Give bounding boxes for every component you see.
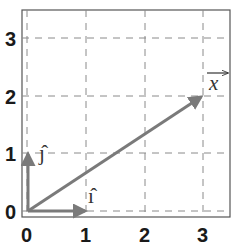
y-tick-2: 2 <box>5 86 16 108</box>
y-tick-3: 3 <box>5 28 16 50</box>
x-tick-3: 3 <box>197 224 208 246</box>
y-tick-0: 0 <box>5 201 16 223</box>
x-vector-label: x <box>208 71 219 95</box>
grid-lines <box>22 10 230 217</box>
plot-frame <box>22 10 230 217</box>
x-tick-2: 2 <box>139 224 150 246</box>
vector-diagram: 3 2 1 0 0 1 2 3 ı̂ ȷ̂ x <box>0 0 236 247</box>
j-hat-label: ȷ̂ <box>38 141 49 165</box>
x-tick-1: 1 <box>80 224 91 246</box>
i-hat-label: ı̂ <box>88 184 98 208</box>
x-tick-0: 0 <box>21 224 32 246</box>
x-vector <box>28 97 201 211</box>
y-tick-1: 1 <box>5 143 16 165</box>
